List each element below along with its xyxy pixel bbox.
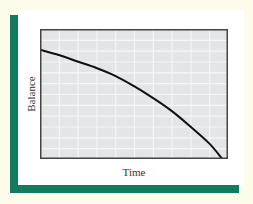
accent-bar-left [10, 15, 18, 193]
y-axis-label: Balance [25, 76, 37, 111]
x-axis-label: Time [123, 166, 146, 178]
accent-bar-bottom [10, 185, 239, 193]
balance-chart [40, 29, 228, 159]
plot-area [40, 29, 228, 159]
